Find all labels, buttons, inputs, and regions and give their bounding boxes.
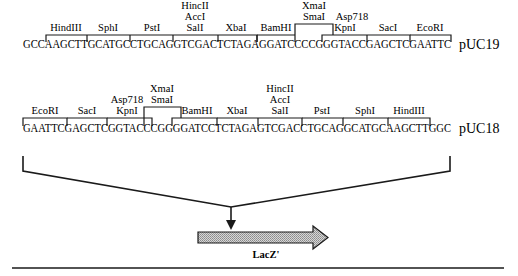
site-label-smai: SmaI <box>303 11 326 22</box>
site-label-hindiii: HindIII <box>393 105 425 116</box>
site-label-bamhi: BamHI <box>182 105 213 116</box>
site-label-psti: PstI <box>314 105 331 116</box>
site-label-ecori: EcoRI <box>417 22 444 33</box>
site-label-asp718: Asp718 <box>111 94 144 105</box>
site-label-xbai: XbaI <box>227 105 248 116</box>
site-label-ecori: EcoRI <box>32 105 59 116</box>
site-label-sphi: SphI <box>355 105 375 116</box>
puc19-label: pUC19 <box>459 37 499 52</box>
lacz-label: LacZ' <box>253 249 280 260</box>
site-label-hindiii: HindIII <box>50 22 82 33</box>
site-label-acci: AccI <box>185 11 206 22</box>
site-label-saci: SacI <box>78 105 97 116</box>
site-label-sali: SalI <box>272 105 289 116</box>
site-label-hincii: HincII <box>266 83 294 94</box>
site-label-xmai: XmaI <box>302 0 326 11</box>
puc18-map: EcoRI SacI Asp718 KpnI XmaI SmaI BamHI X… <box>23 83 499 136</box>
lacz-gene-arrow-icon <box>198 226 328 249</box>
puc19-map: HindIII SphI PstI HincII AccI SalI XbaI … <box>23 0 499 52</box>
insertion-funnel <box>23 156 450 222</box>
site-label-acci: AccI <box>270 94 291 105</box>
site-label-asp718: Asp718 <box>336 11 369 22</box>
site-label-xbai: XbaI <box>226 22 247 33</box>
puc19-sequence: GCCAAGCTTGCATGCCTGCAGGTCGACTCTAGAGGATCCC… <box>23 37 451 51</box>
polylinker-diagram: HindIII SphI PstI HincII AccI SalI XbaI … <box>0 0 518 276</box>
site-label-kpni: KpnI <box>334 22 356 33</box>
site-label-saci: SacI <box>379 22 398 33</box>
site-label-bamhi: BamHI <box>261 22 292 33</box>
site-label-xmai: XmaI <box>150 83 174 94</box>
puc18-label: pUC18 <box>459 121 499 136</box>
site-label-kpni: KpnI <box>116 105 138 116</box>
site-label-hincii: HincII <box>181 0 209 11</box>
site-label-smai: SmaI <box>151 94 174 105</box>
site-label-sphi: SphI <box>98 22 118 33</box>
site-label-psti: PstI <box>144 22 161 33</box>
insertion-arrowhead-icon <box>226 220 236 230</box>
puc18-sequence: GAATTCGAGCTCGGTACCCGGGGATCCTCTAGAGTCGACC… <box>23 121 451 135</box>
site-label-sali: SalI <box>187 22 204 33</box>
